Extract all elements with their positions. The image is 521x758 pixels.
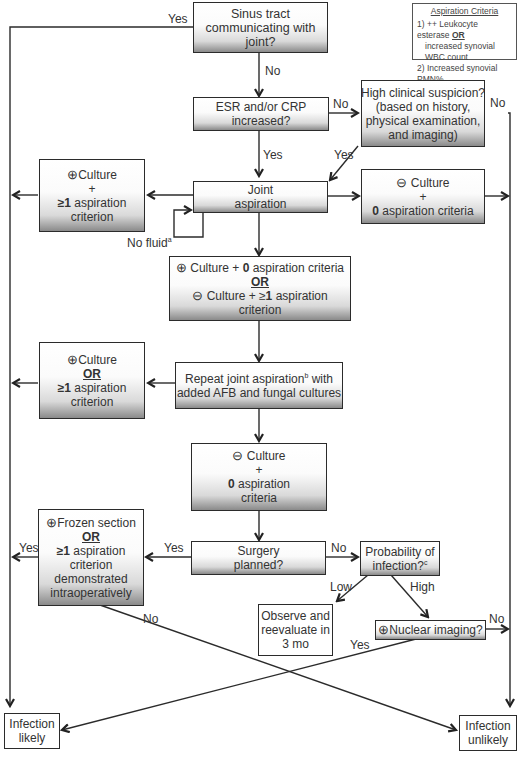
node-text: Infection [465, 719, 510, 733]
node-text: ≥1 aspiration [58, 196, 127, 210]
node-text: increased? [232, 114, 291, 128]
node-text: aspiration criteria [379, 204, 474, 218]
footnote-a: a [168, 236, 172, 243]
node-text: ESR and/or CRP [216, 100, 307, 114]
footnote-c: c [424, 559, 428, 566]
node-text: ⊕Frozen section [46, 516, 136, 530]
node-text: Observe and [261, 609, 330, 623]
node-text: Frozen section [57, 516, 136, 530]
node-text: likely [19, 731, 46, 745]
edge-label-frozen-no: No [143, 612, 158, 626]
aspiration-criteria-legend: Aspiration Criteria 1) ++ Leukocyte este… [412, 3, 517, 60]
edge-label-surgery-no: No [331, 541, 346, 555]
node-text: Probability of [365, 545, 434, 559]
edge-label-nuclear-yes: Yes [350, 638, 370, 652]
node-text: ≥1 aspiration [57, 544, 126, 558]
node-text: aspiration criteria [249, 261, 344, 275]
node-text: joint? [246, 35, 276, 49]
edge-label-suspicion-no: No [490, 96, 505, 110]
node-text: High clinical suspicion? [361, 86, 485, 100]
node-text: aspiration [71, 196, 126, 210]
node-text: Infection [9, 717, 54, 731]
node-text: aspiration [234, 197, 286, 211]
node-text: criteria [241, 491, 277, 505]
node-text: aspiration [235, 477, 290, 491]
or-label: OR [82, 530, 100, 544]
plus-circle-icon: ⊕ [46, 515, 57, 530]
plus-circle-icon: ⊕ [67, 167, 78, 182]
node-frozen-section: ⊕Frozen section OR ≥1 aspiration criteri… [38, 509, 144, 606]
node-text: Culture [407, 176, 449, 190]
node-observe-reevaluate: Observe and reevaluate in 3 mo [258, 604, 333, 656]
node-text: Repeat joint aspiration [185, 372, 304, 386]
edge-label-sinus-yes: Yes [168, 12, 188, 26]
legend-line1: 1) ++ Leukocyte esterase [417, 19, 478, 40]
no-fluid-text: No fluid [127, 236, 168, 250]
node-text: Joint [248, 183, 273, 197]
node-text: ⊖ Culture [396, 176, 449, 190]
node-text: + [88, 182, 95, 196]
legend-criterion-1: 1) ++ Leukocyte esterase OR [417, 19, 512, 41]
minus-circle-icon: ⊖ [396, 175, 407, 190]
node-text: criterion [71, 210, 114, 224]
node-text: Culture [243, 449, 285, 463]
plus-circle-icon: ⊕ [176, 260, 187, 275]
node-text: Culture + ≥ [203, 289, 265, 303]
node-text: ⊖ Culture + ≥1 aspiration [192, 289, 327, 303]
node-infection-likely: Infection likely [4, 713, 60, 749]
node-text: 0 aspiration [228, 477, 290, 491]
node-infection-unlikely: Infection unlikely [459, 715, 517, 751]
edge-label-probability-high: High [410, 580, 435, 594]
node-text: demonstrated [54, 572, 127, 586]
node-text: ⊕Culture [67, 168, 117, 182]
node-text: criterion [239, 303, 282, 317]
node-text-bold: ≥1 [57, 544, 70, 558]
node-text: infection?c [373, 559, 428, 573]
plus-circle-icon: ⊕ [67, 352, 78, 367]
node-text: unlikely [468, 733, 508, 747]
edge-label-esr-yes: Yes [263, 148, 283, 162]
legend-title: Aspiration Criteria [417, 6, 512, 17]
node-text-bold: ≥1 [58, 196, 71, 210]
node-text: criterion [71, 395, 114, 409]
node-text: infection? [373, 559, 424, 573]
edge-label-sinus-no: No [265, 64, 280, 78]
node-text: aspiration [71, 381, 126, 395]
node-sinus-tract: Sinus tract communicating with joint? [193, 2, 328, 53]
node-text: physical examination, [366, 114, 481, 128]
edge-label-suspicion-yes: Yes [334, 148, 354, 162]
node-text-bold: 0 [372, 204, 379, 218]
edge-label-probability-low: Low [330, 580, 352, 594]
node-text: with [308, 372, 333, 386]
node-text: criterion [70, 558, 113, 572]
node-text: Sinus tract [231, 7, 290, 21]
node-mixed-results: ⊕ Culture + 0 aspiration criteria OR ⊖ C… [169, 256, 351, 321]
node-text: + [419, 190, 426, 204]
node-probability-of-infection: Probability of infection?c [360, 541, 440, 576]
node-text: intraoperatively [50, 586, 131, 600]
node-text: 0 aspiration criteria [372, 204, 473, 218]
edge-label-no-fluid: No fluida [127, 236, 172, 250]
legend-or: OR [452, 30, 465, 40]
node-text: Nuclear imaging? [389, 623, 482, 637]
node-high-clinical-suspicion: High clinical suspicion? (based on histo… [361, 80, 485, 147]
minus-circle-icon: ⊖ [192, 288, 203, 303]
plus-circle-icon: ⊕ [378, 622, 389, 637]
node-text: 3 mo [282, 637, 309, 651]
edge-label-nuclear-no: No [489, 612, 504, 626]
node-text: Culture + [187, 261, 243, 275]
node-text: + [255, 463, 262, 477]
node-text: (based on history, [376, 100, 471, 114]
edge-label-surgery-yes: Yes [164, 541, 184, 555]
node-text: Surgery [237, 544, 279, 558]
node-text: communicating with [206, 21, 316, 35]
node-text: aspiration [70, 544, 125, 558]
edge-label-esr-no: No [333, 97, 348, 111]
node-text: ⊕Culture [67, 353, 117, 367]
node-text: ⊕ Culture + 0 aspiration criteria [176, 261, 344, 275]
or-label: OR [251, 275, 269, 289]
node-text: Culture [78, 353, 117, 367]
node-text: ⊖ Culture [232, 449, 285, 463]
node-text: ⊕Nuclear imaging? [378, 623, 482, 637]
node-text: added AFB and fungal cultures [177, 386, 341, 400]
